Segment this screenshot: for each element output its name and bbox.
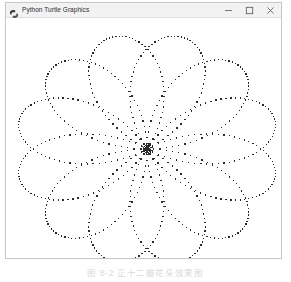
window-title: Python Turtle Graphics [22,6,218,14]
close-button[interactable] [260,3,281,17]
screenshot-root: Python Turtle Graphics [0,0,291,282]
maximize-button[interactable] [239,3,260,17]
turtle-canvas[interactable] [6,18,281,258]
rose-curve-plot [6,18,281,258]
window-titlebar[interactable]: Python Turtle Graphics [6,3,281,18]
figure-caption: 图 8-2 正十二瓣花朵效果图 [0,268,291,279]
turtle-graphics-window: Python Turtle Graphics [5,2,282,259]
python-turtle-icon [9,5,19,15]
window-controls [218,3,281,17]
minimize-button[interactable] [218,3,239,17]
